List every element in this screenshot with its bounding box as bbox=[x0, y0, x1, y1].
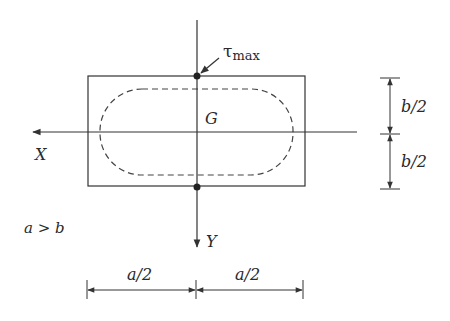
condition-label: a > b bbox=[24, 219, 65, 237]
dim-b-bottom-label: b/2 bbox=[401, 152, 427, 171]
max-stress-point-top bbox=[194, 73, 201, 80]
dim-b-top-label: b/2 bbox=[401, 97, 427, 116]
x-axis-label: X bbox=[33, 145, 47, 164]
rectangular-section-torsion-diagram: τmax G X Y a > b b/2 b/2 a/2 a/2 bbox=[0, 0, 450, 321]
dim-a-left-label: a/2 bbox=[127, 265, 152, 284]
max-stress-point-bottom bbox=[194, 184, 201, 191]
y-axis-label: Y bbox=[206, 232, 218, 251]
tau-max-label: τmax bbox=[223, 41, 260, 63]
dim-a-right-label: a/2 bbox=[235, 265, 260, 284]
tau-max-pointer-arrow bbox=[201, 58, 219, 73]
centroid-label: G bbox=[205, 109, 218, 128]
